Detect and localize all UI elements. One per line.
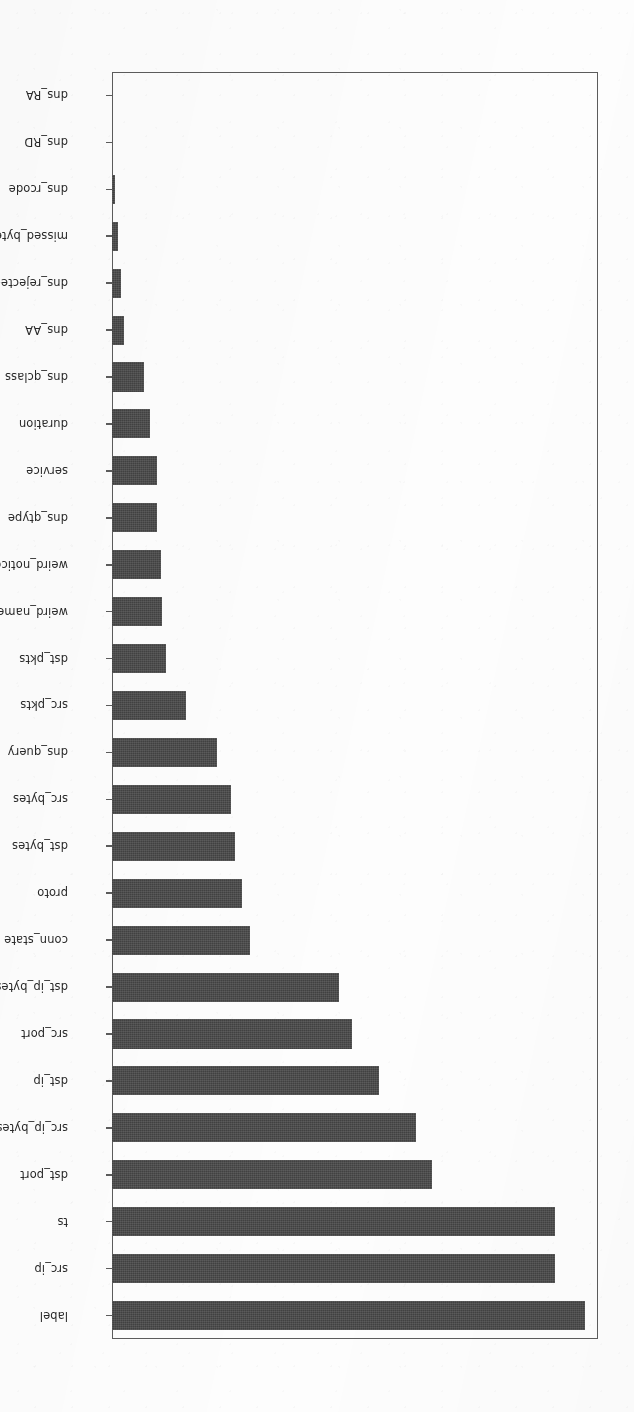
bar-fill-dns_AA [112, 316, 124, 345]
y-axis-label-dns_rcode: dns_rcode [9, 182, 68, 196]
y-tick-dns_rcode [106, 189, 112, 191]
bar-conn_state [112, 926, 598, 955]
bar-fill-dst_ip_bytes [112, 973, 339, 1002]
bar-fill-weird_notice [112, 550, 161, 579]
bar-fill-dns_rcode [112, 175, 115, 204]
bar-fill-dns_rejected [112, 269, 121, 298]
y-tick-duration [106, 423, 112, 425]
bar-fill-dns_query [112, 738, 217, 767]
y-axis-label-dst_port: dst_port [20, 1168, 68, 1182]
y-axis-label-dst_ip_bytes: dst_ip_bytes [0, 980, 68, 994]
y-tick-dns_query [106, 752, 112, 754]
y-axis-label-label: label [40, 1309, 68, 1323]
bar-src_ip_bytes [112, 1113, 598, 1142]
bar-dns_rcode [112, 175, 598, 204]
y-tick-service [106, 470, 112, 472]
y-axis-label-missed_bytes: missed_bytes [0, 229, 68, 243]
bar-fill-label [112, 1301, 585, 1330]
bar-weird_name [112, 597, 598, 626]
y-axis-label-src_ip: src_ip [34, 1262, 68, 1276]
y-tick-dns_AA [106, 329, 112, 331]
bar-fill-dst_ip [112, 1066, 379, 1095]
y-tick-conn_state [106, 939, 112, 941]
bar-dns_qtype [112, 503, 598, 532]
bar-fill-src_pkts [112, 691, 186, 720]
y-tick-dst_port [106, 1174, 112, 1176]
rotated-figure-container: labelsrc_iptsdst_portsrc_ip_bytesdst_ips… [0, 0, 634, 1412]
bar-fill-dns_qtype [112, 503, 157, 532]
bar-label [112, 1301, 598, 1330]
bar-dns_rejected [112, 269, 598, 298]
y-axis-label-dns_rejected: dns_rejected [0, 276, 68, 290]
y-axis-label-ts: ts [57, 1215, 68, 1229]
bar-src_ip [112, 1254, 598, 1283]
bar-dns_qclass [112, 362, 598, 391]
bar-fill-service [112, 456, 157, 485]
y-tick-src_port [106, 1033, 112, 1035]
bar-src_pkts [112, 691, 598, 720]
bar-duration [112, 409, 598, 438]
bar-src_bytes [112, 785, 598, 814]
bar-fill-src_port [112, 1019, 352, 1048]
bar-dns_RD [112, 128, 598, 157]
y-axis-label-dns_RA: dns_RA [26, 88, 68, 102]
y-axis-label-dns_AA: dns_AA [25, 323, 68, 337]
bar-service [112, 456, 598, 485]
chart-overlay: labelsrc_iptsdst_portsrc_ip_bytesdst_ips… [112, 72, 598, 1339]
bar-src_port [112, 1019, 598, 1048]
y-tick-dns_rejected [106, 282, 112, 284]
y-axis-label-dst_pkts: dst_pkts [19, 652, 68, 666]
bar-dst_port [112, 1160, 598, 1189]
bar-dns_query [112, 738, 598, 767]
bar-proto [112, 879, 598, 908]
y-tick-src_ip_bytes [106, 1127, 112, 1129]
bar-dst_pkts [112, 644, 598, 673]
bar-fill-conn_state [112, 926, 250, 955]
y-tick-missed_bytes [106, 235, 112, 237]
bar-fill-weird_name [112, 597, 162, 626]
y-axis-label-proto: proto [37, 886, 68, 900]
bar-fill-missed_bytes [112, 222, 118, 251]
y-tick-weird_name [106, 611, 112, 613]
y-axis-label-src_port: src_port [21, 1027, 68, 1041]
y-tick-dns_qtype [106, 517, 112, 519]
bar-fill-dst_port [112, 1160, 432, 1189]
bar-fill-src_ip_bytes [112, 1113, 416, 1142]
bar-fill-src_bytes [112, 785, 231, 814]
bar-dns_AA [112, 316, 598, 345]
y-axis-label-duration: duration [19, 417, 68, 431]
bar-missed_bytes [112, 222, 598, 251]
y-tick-dns_RD [106, 142, 112, 144]
bar-dns_RA [112, 81, 598, 110]
bar-fill-proto [112, 879, 242, 908]
y-axis-label-weird_notice: weird_notice [0, 558, 68, 572]
y-axis-label-dst_bytes: dst_bytes [12, 839, 68, 853]
bar-ts [112, 1207, 598, 1236]
y-axis-label-dst_ip: dst_ip [33, 1074, 68, 1088]
bar-fill-dns_qclass [112, 362, 144, 391]
y-axis-label-src_pkts: src_pkts [20, 699, 68, 713]
y-axis-label-src_bytes: src_bytes [13, 792, 68, 806]
y-axis-label-dns_qclass: dns_qclass [5, 370, 68, 384]
y-tick-dns_qclass [106, 376, 112, 378]
y-axis-label-dns_qtype: dns_qtype [8, 511, 68, 525]
bar-fill-src_ip [112, 1254, 555, 1283]
y-tick-proto [106, 892, 112, 894]
y-tick-dns_RA [106, 95, 112, 97]
y-tick-dst_bytes [106, 845, 112, 847]
bar-fill-duration [112, 409, 150, 438]
bar-fill-dst_bytes [112, 832, 235, 861]
bar-weird_notice [112, 550, 598, 579]
y-axis-label-dns_query: dns_query [8, 745, 68, 759]
bar-fill-dst_pkts [112, 644, 166, 673]
y-axis-label-conn_state: conn_state [4, 933, 68, 947]
y-tick-weird_notice [106, 564, 112, 566]
y-tick-src_pkts [106, 705, 112, 707]
bar-dst_ip [112, 1066, 598, 1095]
y-axis-label-src_ip_bytes: src_ip_bytes [0, 1121, 68, 1135]
y-tick-dst_ip_bytes [106, 986, 112, 988]
y-tick-dst_pkts [106, 658, 112, 660]
y-axis-label-weird_name: weird_name [0, 605, 68, 619]
y-tick-src_ip [106, 1268, 112, 1270]
bar-fill-ts [112, 1207, 555, 1236]
